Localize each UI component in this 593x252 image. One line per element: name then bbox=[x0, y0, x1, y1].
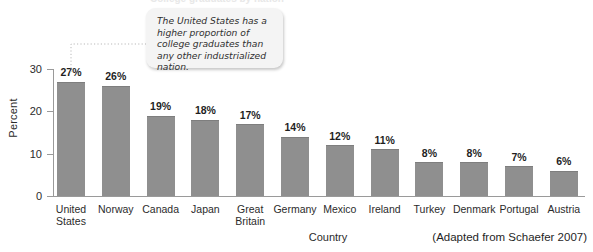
x-tick-label: Mexico bbox=[318, 203, 362, 215]
callout-box: The United States has a higher proportio… bbox=[146, 8, 283, 68]
bar-value-label: 26% bbox=[95, 71, 137, 82]
x-tick-label: Norway bbox=[94, 203, 138, 215]
bar bbox=[505, 166, 533, 196]
bar bbox=[550, 171, 578, 196]
x-axis-title: Country bbox=[268, 231, 388, 243]
bar-value-label: 11% bbox=[364, 135, 406, 146]
bar bbox=[281, 137, 309, 196]
bar-value-label: 8% bbox=[408, 148, 450, 159]
bar-group: 17%GreatBritain bbox=[236, 124, 264, 196]
bar bbox=[57, 82, 85, 196]
bar bbox=[415, 162, 443, 196]
bar-value-label: 12% bbox=[319, 131, 361, 142]
bar bbox=[326, 145, 354, 196]
bar-group: 11%Ireland bbox=[371, 149, 399, 196]
bar-group: 19%Canada bbox=[147, 116, 175, 196]
callout-text: The United States has a higher proportio… bbox=[157, 15, 274, 73]
bar-group: 8%Denmark bbox=[460, 162, 488, 196]
bar-value-label: 27% bbox=[50, 67, 92, 78]
bar-value-label: 6% bbox=[543, 156, 585, 167]
bar bbox=[371, 149, 399, 196]
bar-group: 14%Germany bbox=[281, 137, 309, 196]
x-tick-label: Denmark bbox=[452, 203, 496, 215]
bar bbox=[147, 116, 175, 196]
bar-group: 7%Portugal bbox=[505, 166, 533, 196]
x-tick-label: Ireland bbox=[363, 203, 407, 215]
bar-value-label: 7% bbox=[498, 152, 540, 163]
bar bbox=[460, 162, 488, 196]
x-tick-label: GreatBritain bbox=[228, 203, 272, 227]
bar bbox=[191, 120, 219, 196]
bar-chart-figure: College graduates by nation Percent 0102… bbox=[0, 0, 593, 252]
x-tick-label: Japan bbox=[183, 203, 227, 215]
bar bbox=[236, 124, 264, 196]
x-tick-label: Germany bbox=[273, 203, 317, 215]
x-tick-label: UnitedStates bbox=[49, 203, 93, 227]
bar-value-label: 17% bbox=[229, 110, 271, 121]
x-tick-label: Portugal bbox=[497, 203, 541, 215]
x-tick-label: Austria bbox=[542, 203, 586, 215]
bar-group: 12%Mexico bbox=[326, 145, 354, 196]
bars-layer: 27%UnitedStates26%Norway19%Canada18%Japa… bbox=[0, 0, 593, 252]
bar-value-label: 19% bbox=[140, 101, 182, 112]
source-note: (Adapted from Schaefer 2007) bbox=[432, 231, 587, 243]
x-tick-label: Turkey bbox=[407, 203, 451, 215]
bar-value-label: 18% bbox=[184, 105, 226, 116]
bar-group: 26%Norway bbox=[102, 86, 130, 196]
bar-group: 6%Austria bbox=[550, 171, 578, 196]
x-tick-label: Canada bbox=[139, 203, 183, 215]
bar-group: 18%Japan bbox=[191, 120, 219, 196]
bar-value-label: 14% bbox=[274, 122, 316, 133]
bar-group: 8%Turkey bbox=[415, 162, 443, 196]
bar bbox=[102, 86, 130, 196]
bar-value-label: 8% bbox=[453, 148, 495, 159]
bar-group: 27%UnitedStates bbox=[57, 82, 85, 196]
